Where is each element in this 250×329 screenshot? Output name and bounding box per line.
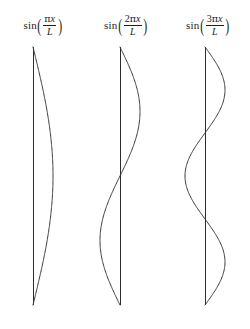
open-paren-mode-3: ( (200, 16, 204, 35)
standing-wave-modes-figure: sin ( πx L ) sin ( 2πx L ) (0, 0, 250, 329)
panel-label-mode-2: sin ( 2πx L ) (86, 14, 166, 37)
close-paren-mode-2: ) (143, 16, 147, 35)
fraction-mode-3: 3πx L (206, 14, 224, 37)
numerator-variable-mode-2: x (136, 13, 140, 24)
close-paren-mode-1: ) (58, 16, 62, 35)
function-name-mode-1: sin (23, 20, 36, 31)
fraction-mode-1: πx L (43, 14, 56, 37)
panel-label-mode-3: sin ( 3πx L ) (166, 14, 250, 37)
fraction-denominator-mode-3: L (211, 26, 219, 38)
numerator-variable-mode-1: x (51, 13, 55, 24)
close-paren-mode-3: ) (225, 16, 229, 35)
fraction-numerator-mode-2: 2πx (124, 14, 142, 25)
panel-label-mode-1: sin ( πx L ) (0, 14, 86, 37)
numerator-variable-mode-3: x (218, 13, 222, 24)
fraction-denominator-mode-1: L (46, 26, 54, 38)
fraction-numerator-mode-3: 3πx (206, 14, 224, 25)
panel-mode-3: sin ( 3πx L ) (166, 0, 250, 329)
fraction-numerator-mode-1: πx (43, 14, 56, 25)
function-name-mode-3: sin (186, 20, 199, 31)
open-paren-mode-1: ( (38, 16, 42, 35)
panel-mode-1: sin ( πx L ) (0, 0, 86, 329)
function-name-mode-2: sin (104, 20, 117, 31)
fraction-mode-2: 2πx L (124, 14, 142, 37)
panel-mode-2: sin ( 2πx L ) (86, 0, 166, 329)
open-paren-mode-2: ( (118, 16, 122, 35)
fraction-denominator-mode-2: L (129, 26, 137, 38)
